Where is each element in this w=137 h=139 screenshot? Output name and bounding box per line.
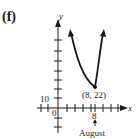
x-axis-arrow-icon (120, 105, 128, 111)
origin-label: 0 (52, 108, 57, 118)
chart: y x 10 0 (8, 22) 8 August (0, 0, 137, 139)
vertex-label: (8, 22) (82, 90, 106, 100)
x-axis-label: x (127, 103, 132, 113)
x-annotation: August (79, 128, 106, 138)
y-axis-label: y (58, 11, 63, 21)
x-tick-label: 8 (92, 111, 97, 121)
curve-arrow-left-icon (68, 29, 74, 37)
y-tick-label: 10 (40, 94, 50, 104)
curve (71, 33, 103, 87)
curve-arrow-right-icon (100, 29, 106, 37)
vertex-point (94, 86, 97, 89)
